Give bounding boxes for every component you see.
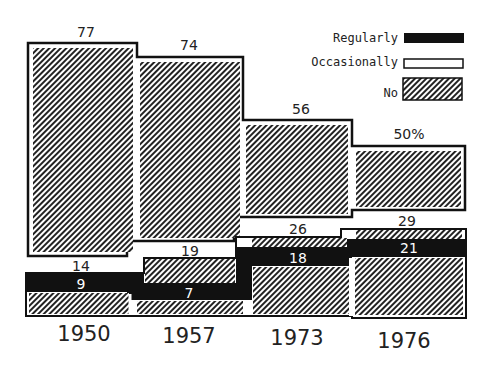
regular-label-1950: 9 [77,276,86,292]
legend-label-no: No [384,86,398,100]
regular-label-1957: 7 [185,285,194,301]
legend-swatch-occasionally [404,59,463,68]
total-label-1973: 26 [289,221,307,237]
no-bottom-1957 [137,301,243,314]
year-label-1976: 1976 [377,329,430,353]
no-label-1973: 56 [292,101,310,117]
no-bar-1973 [246,125,348,214]
legend: Regularly Occasionally No [311,31,464,100]
total-label-1950: 14 [72,258,90,274]
no-bar-1957 [140,62,240,238]
occasional-1957 [145,259,235,283]
legend-swatch-no [403,78,462,100]
regular-label-1976: 21 [400,240,418,256]
no-bottom-1973 [253,267,349,314]
occasional-1976 [356,230,462,239]
no-label-1950: 77 [77,24,95,40]
total-label-1976: 29 [398,213,416,229]
occasional-1973 [252,238,347,247]
no-bottom-1976 [355,258,463,315]
legend-swatch-regularly [404,33,464,43]
total-label-1957: 19 [181,243,199,259]
no-label-1957: 74 [180,37,198,53]
year-label-1957: 1957 [162,324,215,348]
regular-label-1973: 18 [289,250,307,266]
year-label-1950: 1950 [57,322,110,346]
legend-label-regularly: Regularly [333,31,398,45]
no-label-1976: 50% [393,126,424,142]
step-bar-chart: 77 74 56 50% 14 19 26 29 9 7 18 21 1950 … [0,0,488,366]
legend-label-occasionally: Occasionally [311,55,398,69]
year-label-1973: 1973 [270,326,323,350]
no-bar-1950 [33,48,133,252]
no-bottom-1950 [29,293,129,314]
no-bar-1976 [356,151,461,207]
